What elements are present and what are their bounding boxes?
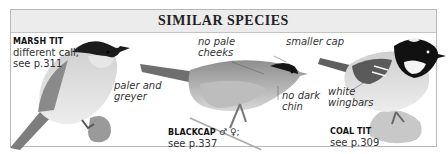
blackcap-label: BLACKCAP ♂ ♀; see p.337 xyxy=(168,126,240,149)
annotation-no-dark-chin: no dark chin xyxy=(282,90,320,112)
species-name: BLACKCAP xyxy=(168,128,216,137)
sex-symbols: ♂ ♀; xyxy=(219,127,240,137)
coal-tit-label: COAL TIT see p.309 xyxy=(330,126,379,148)
annotation-no-pale-cheeks: no pale cheeks xyxy=(198,36,235,58)
species-name: COAL TIT xyxy=(330,126,379,137)
annotation-paler-greyer: paler and greyer xyxy=(114,80,162,102)
species-detail: different call; xyxy=(13,47,79,58)
marsh-tit-label: MARSH TIT different call; see p.311 xyxy=(13,36,79,69)
species-name: MARSH TIT xyxy=(13,36,79,47)
annotation-smaller-cap: smaller cap xyxy=(286,36,344,47)
species-page-ref: see p.311 xyxy=(13,58,79,69)
annotation-white-wingbars: white wingbars xyxy=(328,86,373,108)
species-page-ref: see p.309 xyxy=(330,137,379,148)
species-page-ref: see p.337 xyxy=(168,138,240,149)
